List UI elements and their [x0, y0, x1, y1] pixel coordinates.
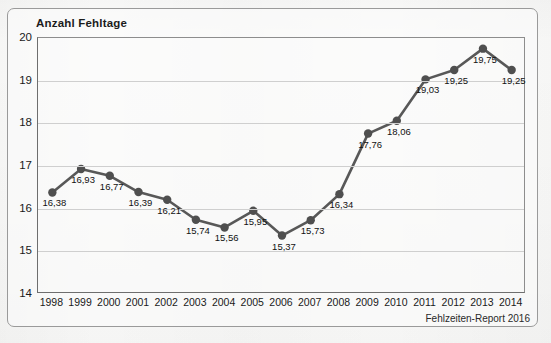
- data-point-marker: [479, 44, 487, 52]
- data-point-label: 19,03: [416, 84, 440, 95]
- data-point-label: 15,56: [215, 232, 239, 243]
- data-point-label: 16,34: [330, 199, 354, 210]
- x-tick-label: 2005: [241, 296, 264, 308]
- data-point-label: 19,75: [473, 54, 497, 65]
- y-tick-label: 18: [6, 116, 32, 128]
- source-note: Fehlzeiten-Report 2016: [425, 313, 530, 324]
- x-tick-label: 2010: [384, 296, 407, 308]
- x-tick-label: 2008: [327, 296, 350, 308]
- gridline: [38, 209, 524, 210]
- data-point-label: 19,25: [444, 75, 468, 86]
- y-tick-label: 19: [6, 74, 32, 86]
- data-point-marker: [450, 66, 458, 74]
- data-point-label: 15,74: [186, 225, 210, 236]
- data-point-marker: [307, 216, 315, 224]
- chart-screenshot: Anzahl Fehltage 14151617181920 199819992…: [0, 0, 551, 343]
- data-point-label: 16,77: [100, 181, 124, 192]
- data-point-marker: [421, 75, 429, 83]
- data-point-marker: [134, 188, 142, 196]
- page-title: Anzahl Fehltage: [36, 17, 127, 29]
- x-tick-label: 2011: [413, 296, 436, 308]
- data-point-label: 16,38: [42, 197, 66, 208]
- data-point-marker: [106, 172, 114, 180]
- data-point-marker: [163, 196, 171, 204]
- x-tick-label: 2001: [126, 296, 149, 308]
- x-axis-tick-labels: 1998199920002001200220032004200520062007…: [37, 296, 525, 314]
- gridline: [38, 166, 524, 167]
- data-point-marker: [192, 216, 200, 224]
- x-tick-label: 2004: [212, 296, 235, 308]
- y-axis-tick-labels: 14151617181920: [0, 37, 32, 293]
- x-tick-label: 2012: [442, 296, 465, 308]
- data-point-label: 16,39: [129, 197, 153, 208]
- data-point-label: 15,95: [243, 216, 267, 227]
- data-line: [52, 49, 511, 236]
- x-tick-label: 2000: [97, 296, 120, 308]
- data-point-label: 15,73: [301, 225, 325, 236]
- y-tick-label: 20: [6, 31, 32, 43]
- data-point-marker: [220, 223, 228, 231]
- x-tick-label: 2013: [470, 296, 493, 308]
- x-tick-label: 1998: [40, 296, 63, 308]
- x-tick-label: 2014: [499, 296, 522, 308]
- y-tick-label: 16: [6, 202, 32, 214]
- data-point-marker: [507, 66, 515, 74]
- data-point-marker: [278, 231, 286, 239]
- data-point-marker: [364, 129, 372, 137]
- data-point-label: 17,76: [358, 139, 382, 150]
- x-tick-label: 1999: [68, 296, 91, 308]
- data-point-marker: [335, 190, 343, 198]
- x-tick-label: 2003: [183, 296, 206, 308]
- gridline: [38, 123, 524, 124]
- data-point-marker: [48, 188, 56, 196]
- x-tick-label: 2006: [269, 296, 292, 308]
- data-point-label: 15,37: [272, 241, 296, 252]
- x-tick-label: 2009: [355, 296, 378, 308]
- x-tick-label: 2002: [154, 296, 177, 308]
- data-point-label: 19,25: [502, 75, 526, 86]
- data-point-label: 16,21: [157, 205, 181, 216]
- x-tick-label: 2007: [298, 296, 321, 308]
- y-tick-label: 15: [6, 244, 32, 256]
- data-point-label: 16,93: [71, 174, 95, 185]
- data-point-label: 18,06: [387, 126, 411, 137]
- y-tick-label: 14: [6, 287, 32, 299]
- y-tick-label: 17: [6, 159, 32, 171]
